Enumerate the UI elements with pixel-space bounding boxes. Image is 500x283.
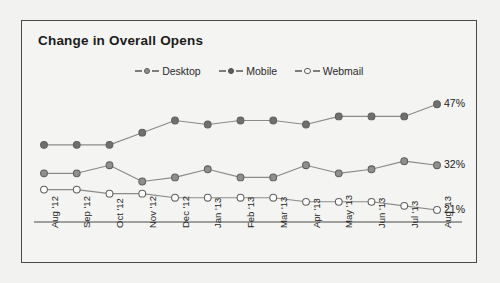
- x-tick-7: Mar '13: [278, 197, 289, 228]
- value-label-desktop: 32%: [444, 158, 465, 170]
- value-label-mobile: 47%: [444, 97, 465, 109]
- x-tick-10: Jun '13: [376, 198, 387, 228]
- x-tick-2: Oct '12: [114, 198, 125, 228]
- x-tick-5: Jan '13: [212, 198, 223, 228]
- x-tick-8: Apr '13: [311, 198, 322, 228]
- x-tick-11: Jul '13: [409, 201, 420, 228]
- x-tick-9: May '13: [343, 195, 354, 228]
- value-label-webmail: 21%: [444, 203, 465, 215]
- x-axis-labels: Aug '12Sep '12Oct '12Nov '12Dec '12Jan '…: [0, 0, 500, 283]
- x-tick-1: Sep '12: [81, 196, 92, 228]
- x-tick-4: Dec '12: [180, 196, 191, 228]
- x-tick-0: Aug '12: [49, 196, 60, 228]
- x-tick-6: Feb '13: [245, 197, 256, 228]
- x-tick-3: Nov '12: [147, 196, 158, 228]
